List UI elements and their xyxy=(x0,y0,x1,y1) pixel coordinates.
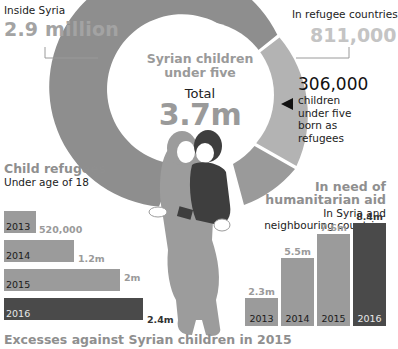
hbar-year: 2013 xyxy=(6,221,30,232)
vbar-value-2013: 2.3m xyxy=(245,286,278,297)
vbar-value-2014: 5.5m xyxy=(281,246,314,257)
vbar-year: 2016 xyxy=(353,313,386,324)
vbar-2016: 2016 xyxy=(353,223,386,326)
vbar-year: 2015 xyxy=(317,313,350,324)
donut-title-line1: Syrian children xyxy=(140,52,260,66)
aid-title-line2: humanitarian aid xyxy=(265,192,386,207)
born-refugees-line2: under five xyxy=(298,107,368,120)
donut-title-line2: under five xyxy=(140,66,260,80)
hbar-2014: 2014 xyxy=(4,240,74,262)
child-refugees-title: Child refugees xyxy=(4,161,106,176)
hbar-value-2014: 1.2m xyxy=(78,253,105,264)
hbar-value-2015: 2m xyxy=(124,272,141,283)
vbar-2014: 2014 xyxy=(281,258,314,326)
born-refugees-annotation: 306,000 children under five born as refu… xyxy=(298,74,368,144)
born-refugees-line4: refugees xyxy=(298,132,368,145)
born-refugees-line3: born as xyxy=(298,119,368,132)
refugee-countries-value: 811,000 xyxy=(310,24,397,46)
hbar-year: 2015 xyxy=(6,279,30,290)
born-refugees-value: 306,000 xyxy=(298,74,368,94)
hbar-2016: 2016 xyxy=(4,298,143,320)
donut-center: Syrian children under five Total 3.7m xyxy=(140,52,260,132)
inside-syria-value: 2.9 million xyxy=(4,18,119,40)
hbar-value-2013: 520,000 xyxy=(39,224,82,235)
donut-total-value: 3.7m xyxy=(140,97,260,132)
hbar-value-2016: 2.4m xyxy=(147,314,174,325)
footer-title: Excesses against Syrian children in 2015 xyxy=(4,332,292,347)
hbar-year: 2016 xyxy=(6,308,30,319)
vbar-2015: 2015 xyxy=(317,234,350,326)
born-refugees-line1: children xyxy=(298,94,368,107)
vbar-year: 2014 xyxy=(281,313,314,324)
hbar-2015: 2015 xyxy=(4,269,120,291)
vbar-value-2016: 8.4m xyxy=(353,211,386,222)
refugee-countries-label: In refugee countries xyxy=(292,8,398,20)
vbar-year: 2013 xyxy=(245,313,278,324)
hbar-2013: 2013 xyxy=(4,211,36,233)
inside-syria-label: Inside Syria xyxy=(4,4,65,16)
vbar-value-2015: 7.6m xyxy=(317,222,350,233)
vbar-2013: 2013 xyxy=(245,298,278,326)
leader-line-refugee-countries xyxy=(296,47,349,58)
child-refugees-subtitle: Under age of 18 xyxy=(4,176,89,188)
hbar-year: 2014 xyxy=(6,250,30,261)
